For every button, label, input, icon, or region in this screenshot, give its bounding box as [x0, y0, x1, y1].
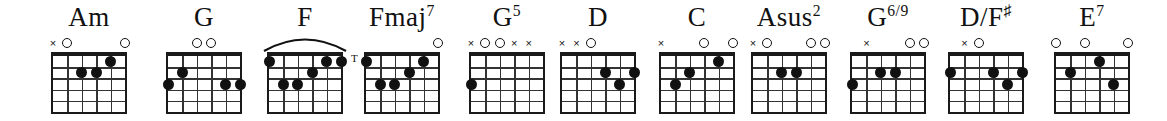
string-line [82, 56, 84, 112]
string-markers-g69 [850, 38, 926, 51]
string-line [514, 56, 516, 112]
finger-dot [220, 79, 231, 90]
fretboard-c [659, 0, 735, 121]
string-markers-c [659, 38, 735, 51]
string-line [529, 56, 531, 112]
string-line [409, 56, 411, 112]
finger-dot [1002, 79, 1013, 90]
finger-dot [235, 79, 246, 90]
string-line [767, 56, 769, 112]
muted-string-marker-icon [748, 38, 759, 49]
fretboard-d [560, 0, 636, 121]
fretboard-g69 [850, 0, 926, 121]
finger-dot [600, 67, 611, 78]
chord-diagram-f: F [255, 0, 355, 121]
finger-dot [375, 79, 386, 90]
string-line [211, 56, 213, 112]
finger-dot [670, 79, 681, 90]
string-markers-am [51, 38, 127, 51]
fretboard-fmaj7: T [364, 0, 440, 121]
finger-dot [791, 67, 802, 78]
string-line [866, 56, 868, 112]
open-string-marker-icon [495, 38, 505, 48]
fret-line [1056, 90, 1128, 92]
fretboard-am [51, 0, 127, 121]
open-string-marker-icon [1051, 38, 1061, 48]
thumb-label: T [351, 53, 358, 64]
string-markers-asus2 [751, 38, 827, 51]
fret-line [950, 67, 1022, 69]
string-line [993, 56, 995, 112]
fret-line [471, 101, 543, 103]
fret-line [562, 101, 634, 103]
finger-dot [91, 67, 102, 78]
open-string-marker-icon [806, 38, 816, 48]
fret-line [53, 101, 125, 103]
fret-line [471, 78, 543, 80]
fret-line [366, 90, 438, 92]
finger-dot [1108, 79, 1119, 90]
muted-string-marker-icon [523, 38, 534, 49]
chord-diagram-am: Am [30, 0, 148, 121]
string-line [500, 56, 502, 112]
string-line [811, 56, 813, 112]
open-string-marker-icon [974, 38, 984, 48]
finger-dot [1017, 67, 1028, 78]
string-line [796, 56, 798, 112]
finger-dot [336, 56, 347, 67]
string-line [576, 56, 578, 112]
open-string-marker-icon [905, 38, 915, 48]
barre-arc-icon [262, 32, 348, 52]
fret-line [562, 90, 634, 92]
chord-diagram-fmaj7: Fmaj7T [348, 0, 456, 121]
finger-dot [629, 67, 640, 78]
fret-line [753, 90, 825, 92]
finger-dot [404, 67, 415, 78]
finger-dot [278, 79, 289, 90]
fret-line [269, 67, 341, 69]
finger-dot [847, 79, 858, 90]
open-string-marker-icon [120, 38, 130, 48]
open-string-marker-icon [586, 38, 596, 48]
fret-line [269, 90, 341, 92]
finger-dot [389, 79, 400, 90]
fret-line [53, 78, 125, 80]
fret-line [852, 78, 924, 80]
fret-line [753, 78, 825, 80]
string-line [67, 56, 69, 112]
string-markers-g [166, 38, 242, 51]
muted-string-marker-icon [656, 38, 667, 49]
fret-line [471, 90, 543, 92]
finger-dot [307, 67, 318, 78]
muted-string-marker-icon [466, 38, 477, 49]
chord-diagram-asus2: Asus2 [735, 0, 843, 121]
string-line [964, 56, 966, 112]
string-line [605, 56, 607, 112]
finger-dot [466, 79, 477, 90]
string-line [312, 56, 314, 112]
fret-line [366, 67, 438, 69]
chord-diagram-g5: G5 [455, 0, 559, 121]
open-string-marker-icon [433, 38, 443, 48]
finger-dot [264, 56, 275, 67]
string-line [690, 56, 692, 112]
fret-line [661, 90, 733, 92]
open-string-marker-icon [919, 38, 929, 48]
muted-string-marker-icon [48, 38, 59, 49]
fret-line [1056, 101, 1128, 103]
fret-grid [469, 52, 545, 114]
string-line [782, 56, 784, 112]
finger-dot [614, 79, 625, 90]
fret-line [852, 101, 924, 103]
fret-line [661, 67, 733, 69]
string-line [881, 56, 883, 112]
fret-line [168, 90, 240, 92]
string-line [197, 56, 199, 112]
fret-line [852, 90, 924, 92]
open-string-marker-icon [699, 38, 709, 48]
string-line [895, 56, 897, 112]
string-line [1070, 56, 1072, 112]
fret-line [562, 67, 634, 69]
finger-dot [945, 67, 956, 78]
chord-chart-sheet: AmGFFmaj7TG5DCAsus2G6/9D/F♯E7 [0, 0, 1167, 121]
